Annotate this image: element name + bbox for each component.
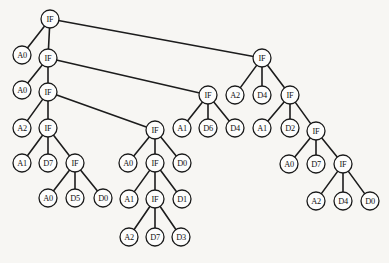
tree-node-circle	[281, 119, 299, 137]
tree-node-circle	[199, 86, 217, 104]
tree-node-circle	[361, 192, 379, 210]
tree-node-circle	[39, 189, 57, 207]
tree-node: D4	[226, 119, 244, 137]
tree-node: A2	[307, 192, 325, 210]
tree-node-circle	[334, 192, 352, 210]
tree-node-circle	[146, 154, 164, 172]
tree-node: A2	[13, 119, 31, 137]
tree-edge	[27, 26, 45, 49]
tree-node-circle	[94, 189, 112, 207]
tree-edge	[80, 170, 97, 192]
tree-node-circle	[120, 190, 138, 208]
tree-edge	[133, 137, 149, 157]
tree-node-circle	[146, 228, 164, 246]
tree-node-circle	[66, 154, 84, 172]
tree-node-circle	[41, 10, 59, 28]
tree-node-circle	[39, 83, 57, 101]
tree-node: IF	[41, 10, 59, 28]
tree-node: IF	[146, 121, 164, 139]
tree-node: IF	[146, 154, 164, 172]
tree-edge	[58, 21, 253, 57]
tree-edge	[27, 65, 42, 84]
tree-node: IF	[66, 154, 84, 172]
tree-node-circle	[146, 121, 164, 139]
tree-node-circle	[253, 86, 271, 104]
tree-node: D2	[281, 119, 299, 137]
tree-node: D7	[307, 155, 325, 173]
tree-node: D0	[361, 192, 379, 210]
tree-node-circle	[146, 190, 164, 208]
tree-node-circle	[172, 228, 190, 246]
tree-node: D7	[146, 228, 164, 246]
tree-node: IF	[199, 86, 217, 104]
tree-node: D0	[173, 154, 191, 172]
tree-node: IF	[39, 49, 57, 67]
tree-edge	[213, 102, 229, 122]
tree-node-circle	[13, 46, 31, 64]
tree-node: D1	[173, 190, 191, 208]
tree-node-circle	[13, 81, 31, 99]
tree-edge	[267, 65, 285, 88]
tree-edge	[134, 170, 150, 192]
tree-node-circle	[226, 86, 244, 104]
tree-edge	[48, 27, 49, 49]
tree-edge	[27, 135, 43, 156]
tree-node-circle	[173, 154, 191, 172]
tree-node-circle	[39, 49, 57, 67]
tree-node: D7	[39, 154, 57, 172]
tree-edge	[294, 138, 310, 158]
tree-node: IF	[146, 190, 164, 208]
tree-node-circle	[307, 192, 325, 210]
tree-node-circle	[253, 49, 271, 67]
tree-node: A1	[13, 154, 31, 172]
tree-node: A0	[13, 81, 31, 99]
tree-node: D5	[66, 189, 84, 207]
tree-node-circle	[307, 122, 325, 140]
tree-edge	[187, 102, 202, 122]
tree-edge	[53, 135, 70, 157]
tree-node-circle	[226, 119, 244, 137]
tree-node: D6	[199, 119, 217, 137]
tree-node: A0	[13, 46, 31, 64]
tree-node-circle	[173, 119, 191, 137]
tree-node-circle	[173, 190, 191, 208]
tree-edge	[56, 95, 147, 127]
tree-node: A2	[226, 86, 244, 104]
tree-node: IF	[307, 122, 325, 140]
tree-node: A1	[253, 119, 271, 137]
tree-edge	[240, 65, 257, 88]
tree-edge	[160, 137, 176, 157]
tree-edge	[56, 60, 199, 93]
tree-node: A2	[120, 228, 138, 246]
tree-node-circle	[253, 119, 271, 137]
tree-edge	[295, 102, 311, 124]
tree-node: IF	[281, 86, 299, 104]
tree-node: IF	[39, 119, 57, 137]
tree-node-circle	[119, 154, 137, 172]
tree-node: IF	[253, 49, 271, 67]
tree-node-circle	[120, 228, 138, 246]
tree-node-circle	[13, 119, 31, 137]
tree-diagram-figure: IFA0IFIFA0IFIFA2D4IFA2IFIFA1D6D4A1D2IFA1…	[0, 0, 389, 263]
tree-node-circle	[13, 154, 31, 172]
tree-edge	[134, 206, 150, 230]
tree-node-circle	[334, 155, 352, 173]
tree-node: D3	[172, 228, 190, 246]
tree-node-circle	[199, 119, 217, 137]
tree-node-circle	[280, 155, 298, 173]
tree-node: A1	[173, 119, 191, 137]
tree-node: A1	[120, 190, 138, 208]
tree-node-circle	[281, 86, 299, 104]
tree-node-circle	[307, 155, 325, 173]
tree-edge	[53, 170, 70, 192]
tree-svg-canvas: IFA0IFIFA0IFIFA2D4IFA2IFIFA1D6D4A1D2IFA1…	[0, 0, 389, 263]
tree-node: A0	[280, 155, 298, 173]
tree-node: D4	[253, 86, 271, 104]
tree-node-circle	[39, 154, 57, 172]
tree-node-circle	[39, 119, 57, 137]
tree-edge	[321, 171, 338, 194]
tree-edge	[160, 206, 176, 230]
tree-node-circle	[66, 189, 84, 207]
tree-edge	[160, 170, 177, 192]
tree-node: IF	[39, 83, 57, 101]
